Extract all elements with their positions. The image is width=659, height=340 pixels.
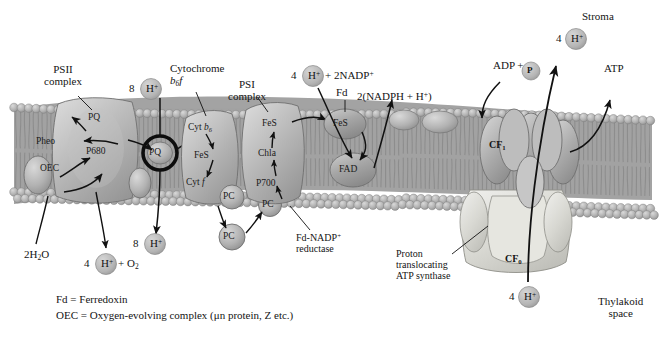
carrier-pc-psi: PC bbox=[262, 199, 274, 209]
proton-8-bottom-label: 8 bbox=[133, 237, 139, 249]
carrier-pq-psii: PQ bbox=[88, 112, 100, 122]
carrier-fes-fd: FeS bbox=[333, 118, 348, 128]
oxygen-output-ion: H+ bbox=[101, 257, 113, 269]
psii-lower-lobe bbox=[129, 168, 151, 198]
oxygen-output-count: 4 bbox=[84, 257, 90, 269]
adp-label: ADP + bbox=[493, 59, 524, 71]
fd-nadp-reductase-label: Fd-NADP+ reductase bbox=[296, 232, 341, 254]
carrier-fad: FAD bbox=[339, 164, 357, 174]
carrier-fes-psi: FeS bbox=[262, 118, 277, 128]
carrier-pc-lumen: PC bbox=[223, 231, 235, 241]
nadp-input-count: 4 bbox=[291, 69, 297, 81]
pc-to-psi-arrow bbox=[246, 212, 262, 233]
carrier-oec: OEC bbox=[40, 163, 59, 173]
psi-complex-label: PSI complex bbox=[228, 78, 266, 103]
cytochrome-b6f-label: Cytochrome b6f bbox=[170, 62, 224, 89]
cytochrome-b6f-italic: b6f bbox=[170, 74, 182, 86]
water-input-arrow bbox=[36, 196, 48, 244]
thylakoid-space-label: Thylakoid space bbox=[598, 295, 643, 320]
cf1-label: CF1 bbox=[489, 139, 506, 152]
oec-shape bbox=[24, 156, 52, 194]
atp-synthase-label: Proton translocating ATP synthase bbox=[396, 248, 450, 282]
nadph-output-label: 2(NADPH + H+) bbox=[357, 90, 432, 102]
proton-8-top-ion: H+ bbox=[146, 82, 158, 94]
atp-label: ATP bbox=[604, 62, 624, 74]
proton-4-stroma-count: 4 bbox=[556, 32, 562, 44]
legend-line-fd: Fd = Ferredoxin bbox=[56, 292, 293, 308]
fd-label: Fd bbox=[336, 86, 348, 98]
carrier-pq-pool: PQ bbox=[149, 147, 161, 157]
legend: Fd = Ferredoxin OEC = Oxygen-evolving co… bbox=[56, 292, 293, 324]
phosphate-label: P bbox=[527, 65, 533, 75]
proton-4-stroma-ion: H+ bbox=[571, 32, 583, 44]
carrier-pc-membrane: PC bbox=[223, 191, 235, 201]
psii-complex-label: PSII complex bbox=[44, 63, 82, 88]
cf0-label: CF0 bbox=[505, 253, 522, 266]
proton-8-bottom-ion: H+ bbox=[150, 237, 162, 249]
legend-line-oec: OEC = Oxygen-evolving complex (μn protei… bbox=[56, 308, 293, 324]
proton-4-lumen-ion: H+ bbox=[524, 290, 536, 302]
water-input-label: 2H2O bbox=[24, 248, 49, 262]
proton-4-lumen-count: 4 bbox=[509, 290, 515, 302]
carrier-chla: Chla bbox=[258, 148, 276, 158]
stroma-label: Stroma bbox=[582, 10, 614, 22]
carrier-fes-cyt: FeS bbox=[194, 150, 209, 160]
carrier-cyt-b6: Cyt b6 bbox=[188, 122, 212, 133]
proton-8-top-label: 8 bbox=[129, 82, 135, 94]
carrier-cyt-f: Cyt f bbox=[186, 177, 205, 187]
carrier-p680: P680 bbox=[86, 146, 106, 156]
nadp-input-tail: + 2NADP+ bbox=[325, 69, 374, 81]
diagram-illustration bbox=[0, 0, 659, 340]
carrier-pheo: Pheo bbox=[36, 136, 55, 146]
diagram-canvas: Stroma Thylakoid space PSII complex Cyto… bbox=[0, 0, 659, 340]
oxygen-output-tail: + O2 bbox=[118, 257, 139, 271]
nadp-input-ion: H+ bbox=[308, 69, 320, 81]
pc-down-arrow bbox=[218, 206, 226, 228]
carrier-p700: P700 bbox=[256, 178, 276, 188]
